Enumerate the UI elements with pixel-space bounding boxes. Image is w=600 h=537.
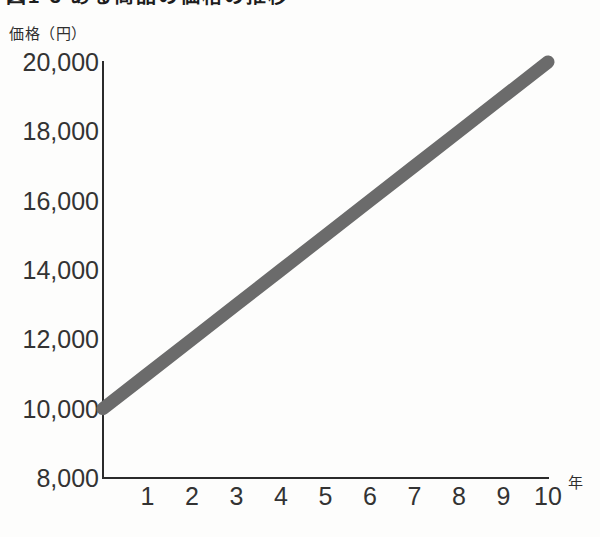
plot-area: 8,00010,00012,00014,00016,00018,00020,00… xyxy=(0,0,600,537)
series-line-price xyxy=(103,62,548,409)
series-plot xyxy=(0,0,600,537)
chart-figure: 図1-3 ある商品の価格の推移 価格（円） 8,00010,00012,0001… xyxy=(0,0,600,537)
